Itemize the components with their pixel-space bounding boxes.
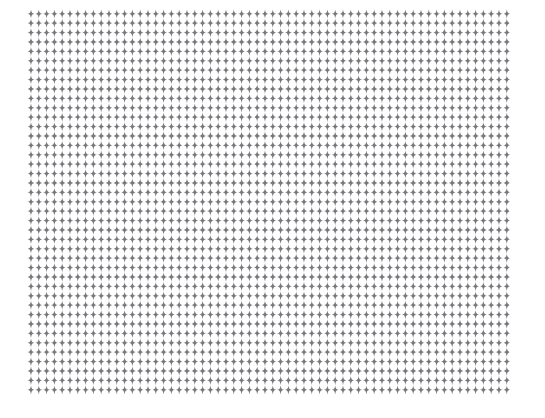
glyph-pattern-field <box>0 0 545 418</box>
page-canvas <box>0 0 545 418</box>
